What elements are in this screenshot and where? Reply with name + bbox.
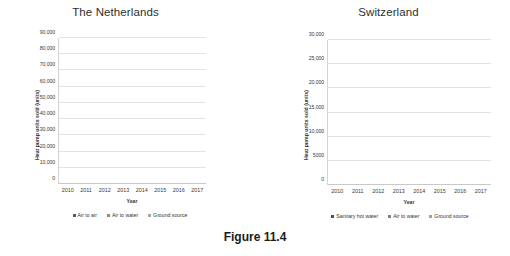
chart-title-switzerland: Switzerland: [261, 6, 510, 18]
x-tick-label: 2014: [413, 188, 425, 194]
x-tick-label: 2015: [434, 188, 446, 194]
legend-item[interactable]: Air to water: [107, 212, 138, 218]
y-tick-label: 20,000: [40, 143, 55, 149]
y-tick-label: 70,000: [40, 61, 55, 67]
legend-item[interactable]: Sanitary hot water: [331, 213, 378, 219]
legend-swatch-icon: [148, 214, 151, 217]
x-tick-label: 2011: [80, 187, 91, 193]
legend-netherlands: Air to airAir to waterGround source: [40, 212, 220, 218]
x-tick-label: 2013: [393, 188, 405, 194]
legend-swatch-icon: [73, 214, 76, 217]
legend-item[interactable]: Air to air: [73, 212, 97, 218]
legend-item[interactable]: Air to water: [388, 213, 419, 219]
y-tick-label: 50,000: [40, 94, 55, 100]
y-tick-label: 30,000: [40, 126, 55, 132]
y-tick-label: 25,000: [309, 55, 324, 61]
y-tick-label: 15,000: [309, 104, 324, 110]
charts-row: The Netherlands Heat pump units sold (un…: [0, 0, 510, 228]
y-tick-label: 20,000: [309, 79, 324, 85]
x-tick-label: 2017: [475, 188, 487, 194]
plot-area-switzerland: 0500010,00015,00020,00025,00030,000: [327, 40, 491, 185]
legend-label: Ground source: [434, 213, 468, 219]
x-tick-label: 2010: [62, 187, 73, 193]
plot-area-netherlands: 010,00020,00030,00040,00050,00060,00070,…: [58, 38, 206, 184]
x-tick-label: 2010: [331, 188, 343, 194]
x-axis-title-netherlands: Year: [58, 198, 206, 204]
y-tick-label: 0: [52, 175, 55, 181]
x-tick-label: 2015: [154, 187, 165, 193]
chart-netherlands: The Netherlands Heat pump units sold (un…: [0, 0, 255, 228]
x-tick-labels-switzerland: 20102011201220132014201520162017: [327, 188, 491, 194]
x-tick-label: 2017: [191, 187, 202, 193]
y-tick-label: 80,000: [40, 45, 55, 51]
y-axis-title-netherlands: Heat pump units sold (units): [34, 90, 40, 160]
x-tick-label: 2011: [352, 188, 364, 194]
y-tick-label: 10,000: [309, 128, 324, 134]
bar-group: [59, 38, 206, 184]
y-tick-label: 30,000: [309, 31, 324, 37]
legend-label: Ground source: [153, 212, 187, 218]
bar-group: [328, 40, 491, 185]
y-tick-label: 40,000: [40, 110, 55, 116]
legend-item[interactable]: Ground source: [429, 213, 468, 219]
x-tick-labels-netherlands: 20102011201220132014201520162017: [58, 187, 206, 193]
y-tick-label: 0: [321, 176, 324, 182]
y-tick-label: 60,000: [40, 78, 55, 84]
legend-swatch-icon: [331, 215, 334, 218]
x-tick-label: 2016: [454, 188, 466, 194]
chart-title-netherlands: The Netherlands: [0, 6, 243, 18]
legend-swatch-icon: [388, 215, 391, 218]
legend-label: Air to air: [78, 212, 97, 218]
legend-label: Sanitary hot water: [336, 213, 378, 219]
x-tick-label: 2012: [372, 188, 384, 194]
x-tick-label: 2013: [117, 187, 128, 193]
y-tick-label: 5000: [313, 152, 324, 158]
y-tick-label: 90,000: [40, 29, 55, 35]
legend-swatch-icon: [107, 214, 110, 217]
legend-label: Air to water: [112, 212, 138, 218]
y-tick-label: 10,000: [40, 159, 55, 165]
y-axis-title-switzerland: Heat pump units sold (units): [303, 90, 309, 160]
legend-swatch-icon: [429, 215, 432, 218]
chart-switzerland: Switzerland Heat pump units sold (units)…: [255, 0, 510, 228]
x-axis-title-switzerland: Year: [327, 199, 491, 205]
legend-label: Air to water: [393, 213, 419, 219]
x-tick-label: 2016: [173, 187, 184, 193]
legend-item[interactable]: Ground source: [148, 212, 187, 218]
legend-switzerland: Sanitary hot waterAir to waterGround sou…: [300, 213, 500, 219]
x-tick-label: 2014: [136, 187, 147, 193]
figure-caption: Figure 11.4: [0, 230, 510, 244]
figure-container: The Netherlands Heat pump units sold (un…: [0, 0, 510, 256]
x-tick-label: 2012: [99, 187, 110, 193]
